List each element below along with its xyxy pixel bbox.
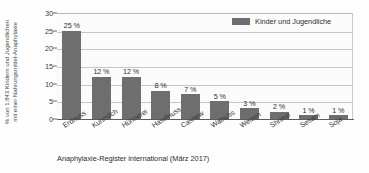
- y-axis-tickmark: [53, 13, 57, 14]
- bar-value-label: 5 %: [214, 92, 226, 101]
- y-axis-title-line-1: % von 1.843 Kindern und Jugendlichen: [3, 20, 11, 124]
- y-axis-tick-label: 20: [40, 44, 53, 53]
- y-axis-tickmark: [53, 48, 57, 49]
- y-axis-tickmark: [53, 101, 57, 102]
- bar[interactable]: [62, 31, 81, 119]
- bar-value-label: 7 %: [184, 85, 196, 94]
- y-axis-tick-label: 25: [40, 26, 53, 35]
- chart-figure: % von 1.843 Kindern und Jugendlichen mit…: [0, 0, 369, 173]
- bar-value-label: 25 %: [64, 21, 80, 30]
- y-axis-tick-label: 30: [40, 9, 53, 18]
- y-axis-tick-label: 5: [40, 97, 53, 106]
- bar-value-label: 8 %: [155, 81, 167, 90]
- y-axis-tickmark: [53, 30, 57, 31]
- y-axis-tick-labels: 302520151050: [38, 0, 53, 173]
- gridline: [57, 49, 352, 50]
- bar-value-label: 12 %: [123, 67, 139, 76]
- y-axis-tickmark: [53, 66, 57, 67]
- chart-caption: Anaphylaxie-Register international (März…: [57, 154, 209, 163]
- y-axis-tick-label: 15: [40, 62, 53, 71]
- gridline: [57, 32, 352, 33]
- legend-label: Kinder und Jugendliche: [255, 17, 331, 26]
- legend-swatch-icon: [232, 18, 250, 25]
- bar-value-label: 3 %: [243, 99, 255, 108]
- y-axis-tick-label: 10: [40, 79, 53, 88]
- y-axis-title: % von 1.843 Kindern und Jugendlichen mit…: [0, 10, 22, 134]
- bar-value-label: 2 %: [273, 102, 285, 111]
- y-axis-title-line-2: mit einer Nahrungsmittel-Anaphylaxie: [11, 22, 19, 121]
- bar-value-label: 12 %: [93, 67, 109, 76]
- y-axis-tick-label: 0: [40, 115, 53, 124]
- y-axis-tickmark: [53, 83, 57, 84]
- y-axis-tickmark: [53, 119, 57, 120]
- chart-legend: Kinder und Jugendliche: [232, 17, 331, 26]
